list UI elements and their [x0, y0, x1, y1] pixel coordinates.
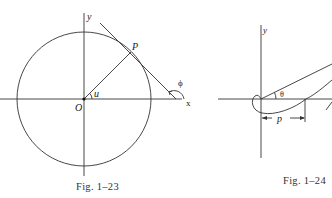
fig23-angle-phi-label: ϕ — [178, 78, 183, 88]
angle-u-arc — [90, 93, 92, 99]
origin-dot — [82, 97, 85, 100]
figure-1-24 — [218, 25, 332, 158]
fig24-theta-label: θ — [280, 90, 284, 99]
fig23-y-label: y — [86, 11, 92, 22]
figure-1-23 — [0, 13, 184, 176]
angle-theta-arc — [275, 93, 277, 100]
tangent-line — [100, 23, 176, 99]
fig24-p-label: p — [276, 113, 282, 124]
fig23-point-p-label: P — [131, 41, 138, 52]
fig23-origin-label: O — [75, 102, 82, 113]
p-arrowhead-left — [262, 116, 267, 120]
fig24-caption: Fig. 1–24 — [283, 175, 326, 186]
curve-right-segment — [326, 102, 332, 110]
looped-curve — [252, 80, 332, 114]
radius-op — [84, 52, 131, 99]
fig23-x-label: x — [186, 98, 191, 108]
fig23-caption: Fig. 1–23 — [76, 181, 119, 192]
ray-theta — [261, 64, 332, 99]
p-arrowhead-right — [300, 116, 305, 120]
figures-canvas: y P O u ϕ x Fig. 1–23 y θ p Fig. 1–24 — [0, 0, 332, 198]
fig24-y-label: y — [262, 25, 267, 35]
fig23-angle-u-label: u — [94, 88, 99, 99]
